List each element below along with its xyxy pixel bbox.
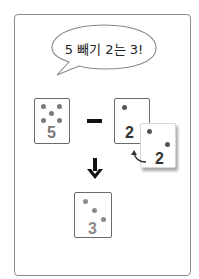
dot — [147, 129, 152, 134]
dot — [49, 111, 54, 116]
dot — [57, 104, 62, 109]
card-five: 5 — [34, 98, 70, 144]
card-number: 5 — [47, 125, 56, 141]
card-three: 3 — [74, 192, 112, 238]
dot — [165, 142, 170, 147]
dot — [57, 118, 62, 123]
down-arrow-icon — [86, 158, 104, 182]
dot — [41, 118, 46, 123]
card-number: 3 — [88, 221, 97, 237]
dot — [92, 208, 97, 213]
minus-sign-icon — [87, 119, 102, 123]
dot — [122, 105, 127, 110]
card-number: 2 — [125, 125, 134, 141]
curved-arrow-icon — [126, 150, 150, 166]
dot — [83, 199, 88, 204]
dot — [101, 217, 106, 222]
speech-bubble-text: 5 빼기 2는 3! — [48, 39, 160, 58]
dot — [41, 104, 46, 109]
card-number: 2 — [155, 151, 164, 167]
